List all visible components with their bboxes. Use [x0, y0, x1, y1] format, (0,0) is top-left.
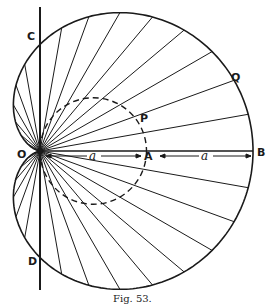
- label-O: O: [17, 148, 26, 161]
- label-D: D: [28, 255, 37, 268]
- radius-vector: [16, 122, 41, 151]
- label-A: A: [144, 150, 153, 163]
- label-B: B: [257, 146, 265, 159]
- figure-caption: Fig. 53.: [113, 293, 152, 304]
- cardioid-figure: C Q P O A B D a a Fig. 53.: [0, 0, 275, 306]
- label-P: P: [140, 112, 148, 125]
- label-Q: Q: [231, 71, 240, 84]
- pole-point-O: [37, 148, 43, 154]
- label-a-AB: a: [201, 149, 208, 163]
- label-a-OA: a: [89, 149, 96, 163]
- label-C: C: [27, 30, 35, 43]
